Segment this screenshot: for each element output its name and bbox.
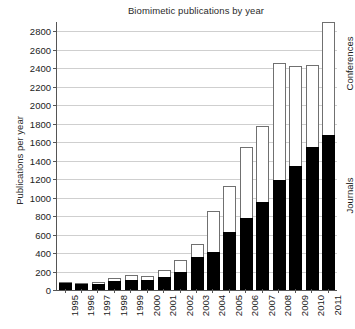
x-axis-tick: 2001	[157, 293, 170, 329]
x-axis-tick: 2009	[288, 293, 301, 329]
y-axis-tick-label: 1000	[30, 192, 51, 203]
plot-area: 0200400600800100012001400160018002000220…	[56, 22, 337, 291]
x-axis-tick-mark	[114, 289, 115, 293]
bar-segment-conferences[interactable]	[322, 22, 335, 135]
bar-group[interactable]	[174, 260, 187, 290]
y-axis-tick-label: 200	[35, 266, 51, 277]
x-axis-tick-labels: 1995199619971998199920002001200220032004…	[56, 293, 336, 329]
bar-segment-journals[interactable]	[289, 166, 302, 290]
x-axis-tick: 1999	[124, 293, 137, 329]
x-axis-tick: 2008	[272, 293, 285, 329]
x-axis-tick: 2011	[321, 293, 334, 329]
x-axis-tick: 1996	[74, 293, 87, 329]
bar-series-container	[57, 22, 337, 290]
bar-group[interactable]	[322, 22, 335, 290]
bar-segment-conferences[interactable]	[240, 147, 253, 219]
bar-group[interactable]	[141, 276, 154, 290]
bar-segment-conferences[interactable]	[289, 66, 302, 166]
bar-group[interactable]	[108, 278, 121, 290]
bar-segment-journals[interactable]	[141, 280, 154, 290]
y-axis-tick-label: 1200	[30, 174, 51, 185]
bar-segment-journals[interactable]	[256, 202, 269, 290]
y-axis-tick-label: 2200	[30, 81, 51, 92]
bar-segment-conferences[interactable]	[174, 260, 187, 272]
x-axis-tick-mark	[130, 289, 131, 293]
bar-group[interactable]	[191, 244, 204, 290]
bar-segment-journals[interactable]	[108, 281, 121, 290]
x-axis-tick-mark	[262, 289, 263, 293]
bar-segment-conferences[interactable]	[207, 211, 220, 252]
x-axis-tick: 2005	[222, 293, 235, 329]
y-axis-tick-mark	[53, 290, 57, 291]
x-axis-tick: 2002	[173, 293, 186, 329]
bar-segment-journals[interactable]	[75, 284, 88, 290]
x-axis-tick: 2000	[140, 293, 153, 329]
bar-segment-journals[interactable]	[306, 147, 319, 290]
x-axis-tick: 1995	[58, 293, 71, 329]
x-axis-tick-mark	[311, 289, 312, 293]
y-axis-tick-label: 0	[46, 285, 51, 296]
x-axis-tick: 2010	[305, 293, 318, 329]
y-axis-tick-label: 2800	[30, 26, 51, 37]
bar-group[interactable]	[75, 283, 88, 290]
series-label-conferences: Conferences	[344, 9, 355, 119]
x-axis-tick-mark	[163, 289, 164, 293]
x-axis-tick: 1997	[91, 293, 104, 329]
y-axis-tick-label: 2400	[30, 63, 51, 74]
x-axis-tick-mark	[295, 289, 296, 293]
x-axis-tick-mark	[212, 289, 213, 293]
y-axis-tick-label: 400	[35, 248, 51, 259]
bar-group[interactable]	[59, 282, 72, 290]
bar-group[interactable]	[289, 66, 302, 290]
y-axis-tick-label: 2000	[30, 100, 51, 111]
y-axis-tick-label: 800	[35, 211, 51, 222]
bar-group[interactable]	[92, 282, 105, 290]
y-axis-label: Publications per year	[14, 76, 25, 246]
bar-segment-conferences[interactable]	[191, 244, 204, 257]
y-axis-tick-label: 1600	[30, 137, 51, 148]
bar-group[interactable]	[125, 275, 138, 290]
bar-segment-conferences[interactable]	[158, 270, 171, 277]
bar-segment-journals[interactable]	[174, 272, 187, 290]
bar-segment-journals[interactable]	[125, 280, 138, 290]
bar-segment-journals[interactable]	[191, 257, 204, 290]
bar-segment-journals[interactable]	[322, 135, 335, 290]
chart-title: Biomimetic publications by year	[56, 5, 336, 16]
x-axis-tick-mark	[328, 289, 329, 293]
x-axis-tick: 1998	[107, 293, 120, 329]
y-axis-tick-label: 1400	[30, 155, 51, 166]
bar-segment-conferences[interactable]	[306, 65, 319, 147]
y-axis-tick-label: 600	[35, 229, 51, 240]
bar-segment-journals[interactable]	[158, 277, 171, 290]
bar-group[interactable]	[306, 65, 319, 290]
bar-segment-conferences[interactable]	[223, 186, 236, 232]
y-axis-tick-label: 2600	[30, 44, 51, 55]
x-axis-tick: 2004	[206, 293, 219, 329]
bar-group[interactable]	[207, 211, 220, 290]
bar-group[interactable]	[240, 147, 253, 290]
x-axis-tick-mark	[278, 289, 279, 293]
x-axis-tick-mark	[196, 289, 197, 293]
x-axis-tick: 2003	[190, 293, 203, 329]
x-axis-tick-mark	[180, 289, 181, 293]
bar-segment-journals[interactable]	[207, 252, 220, 290]
x-axis-tick-mark	[65, 289, 66, 293]
bar-segment-journals[interactable]	[92, 284, 105, 290]
x-axis-tick-mark	[147, 289, 148, 293]
bar-segment-conferences[interactable]	[273, 63, 286, 180]
x-axis-tick-mark	[97, 289, 98, 293]
bar-segment-journals[interactable]	[273, 180, 286, 290]
bar-group[interactable]	[273, 63, 286, 290]
bar-group[interactable]	[256, 126, 269, 290]
series-label-journals: Journals	[344, 152, 355, 240]
bar-group[interactable]	[223, 186, 236, 290]
bar-segment-journals[interactable]	[240, 218, 253, 290]
bar-segment-journals[interactable]	[223, 232, 236, 290]
x-axis-tick: 2006	[239, 293, 252, 329]
x-axis-tick-mark	[245, 289, 246, 293]
bar-segment-journals[interactable]	[59, 283, 72, 290]
bar-group[interactable]	[158, 270, 171, 290]
bar-segment-conferences[interactable]	[256, 126, 269, 202]
x-axis-tick-label: 2011	[332, 295, 343, 315]
